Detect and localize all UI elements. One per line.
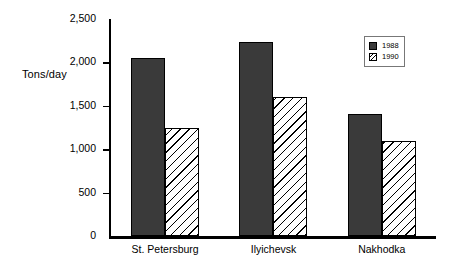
x-axis-category-label: Nakhodka [328,243,436,255]
x-axis-category-label: St. Petersburg [111,243,219,255]
y-axis-tick-label: 1,000 [70,142,96,154]
bar-group [111,19,219,236]
legend-item: 1988 [369,41,399,51]
legend-item-label: 1990 [382,53,399,61]
y-axis-tick-mark [103,193,109,195]
y-axis-title: Tons/day [22,68,67,80]
y-axis-tick-mark [103,149,109,151]
y-axis-tick-mark [103,62,109,64]
bar-1990 [382,141,416,236]
chart-legend: 19881990 [364,36,405,67]
bar-1990 [165,128,199,237]
y-axis-tick-label: 500 [78,186,96,198]
y-axis-tick-label: 1,500 [70,99,96,111]
bar-1988 [131,58,165,236]
legend-swatch-icon [369,42,377,50]
legend-item: 1990 [369,52,399,62]
bar-1988 [348,114,382,236]
bar-group [219,19,327,236]
x-axis-line [109,236,436,239]
bar-chart: Tons/day 05001,0001,5002,0002,500 St. Pe… [0,0,452,278]
legend-item-label: 1988 [382,42,399,50]
bar-1990 [273,97,307,236]
x-axis-category-label: Ilyichevsk [219,243,327,255]
y-axis-tick-label: 0 [90,229,96,241]
bar-1988 [239,42,273,236]
y-axis-tick-mark [103,106,109,108]
y-axis-tick-label: 2,500 [70,12,96,24]
y-axis-tick-label: 2,000 [70,55,96,67]
legend-swatch-icon [369,53,377,61]
